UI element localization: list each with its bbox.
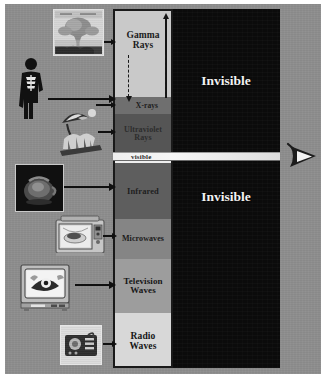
- nuclear-explosion-icon: [54, 10, 103, 55]
- arrow-television-to-tvwaves: [75, 284, 110, 286]
- spectrum-band-label-gamma: Gamma Rays: [125, 31, 160, 51]
- invisible-label-lower: Invisible: [201, 189, 251, 205]
- source-thumb-thermal-kettle: [15, 164, 64, 212]
- arrow-human-to-xrays: [48, 98, 110, 100]
- spectrum-band-label-xrays: X-rays: [135, 102, 159, 110]
- source-thumb-radio-receiver: [60, 325, 102, 365]
- eye-icon: [286, 140, 320, 172]
- arrow-nuclear-to-gamma: [104, 41, 111, 43]
- spectrum-band-label-television: Television Waves: [122, 277, 163, 296]
- arrow-thermal-to-infrared: [64, 186, 110, 188]
- spectrum-band-television[interactable]: Television Waves: [115, 259, 171, 313]
- visible-label: visible: [131, 153, 151, 161]
- spectrum-band-label-ultraviolet: Ultraviolet Rays: [123, 126, 163, 143]
- spectrum-band-infrared[interactable]: Infrared: [115, 163, 171, 219]
- spectrum-band-gamma[interactable]: Gamma Rays: [115, 11, 171, 97]
- beach-umbrella-icon: [58, 104, 103, 156]
- source-thumb-human-xray-figure: [16, 57, 46, 120]
- thermal-kettle-icon: [16, 165, 63, 211]
- arrow-beach-to-ultraviolet: [98, 131, 111, 133]
- spectrum-band-label-radio: Radio Waves: [129, 332, 158, 352]
- spectrum-band-radio[interactable]: Radio Waves: [115, 313, 171, 368]
- spectrum-column: Gamma Rays X-rays Ultraviolet Rays Infra…: [113, 9, 173, 368]
- tv-label-line2: Waves: [130, 285, 156, 295]
- source-thumb-microwave-oven: [54, 214, 106, 259]
- arrow-radio-to-radiowaves: [103, 343, 112, 345]
- arrow-beach-upper: [96, 104, 111, 106]
- invisible-region-upper: Invisible: [172, 9, 280, 153]
- source-thumb-television-set: [19, 262, 73, 312]
- television-set-icon: [19, 262, 73, 312]
- source-thumb-beach-umbrella: [58, 104, 103, 156]
- gamma-label-line2: Rays: [133, 40, 153, 50]
- spectrum-band-label-infrared: Infrared: [126, 187, 160, 196]
- arrow-microwave-to-microwaves: [103, 235, 112, 237]
- microwave-oven-icon: [54, 214, 106, 259]
- diagram-title: Electromagnetic Spectrum: [0, 0, 1, 1]
- spectrum-band-microwaves[interactable]: Microwaves: [115, 219, 171, 259]
- spectrum-band-ultraviolet[interactable]: Ultraviolet Rays: [115, 114, 171, 154]
- spectrum-band-xrays[interactable]: X-rays: [115, 97, 171, 114]
- source-thumb-nuclear-explosion: [53, 9, 104, 56]
- spectrum-band-label-microwaves: Microwaves: [121, 235, 165, 243]
- radio-label-line2: Waves: [130, 341, 157, 351]
- invisible-region-lower: Invisible: [172, 161, 280, 368]
- wavelength-arrow-dashed-right: [165, 55, 166, 97]
- radio-receiver-icon: [61, 326, 101, 364]
- visible-light-strip[interactable]: visible: [113, 152, 280, 161]
- radio-label-line1: Radio: [131, 331, 156, 341]
- wavelength-arrow-down: [128, 55, 129, 97]
- uv-label-line2: Rays: [134, 133, 151, 142]
- gamma-label-line1: Gamma: [126, 30, 159, 40]
- electromagnetic-spectrum-diagram: Invisible Invisible Gamma Rays X-rays Ul…: [0, 0, 326, 377]
- invisible-label-upper: Invisible: [201, 73, 251, 89]
- human-xray-figure-icon: [16, 57, 46, 120]
